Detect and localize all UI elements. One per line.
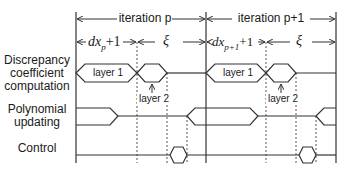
iteration-p-label: iteration p	[117, 12, 173, 25]
phase-suffix: +1	[239, 34, 253, 49]
signal-label-discrepancy: Discrepancy coefficient computation	[0, 54, 74, 93]
timing-diagram: Discrepancy coefficient computation Poly…	[0, 0, 347, 171]
phase-xi-label-p: ξ	[163, 34, 169, 48]
phase-var: dx	[212, 34, 224, 49]
phase-var: dx	[88, 34, 101, 49]
phase-suffix: +1	[106, 34, 121, 49]
control-pulse-p	[170, 147, 187, 163]
control-pulse-p1	[299, 147, 316, 163]
phase-sub: p+1	[224, 42, 239, 52]
poly-block-p1	[316, 108, 336, 125]
layer1-label-p1: layer 1	[220, 67, 256, 78]
signal-label-control: Control	[0, 142, 74, 155]
layer2-block-p	[137, 64, 167, 82]
poly-block-p	[187, 108, 258, 125]
layer2-label-p1: layer 2	[266, 93, 300, 104]
layer2-label-p: layer 2	[137, 93, 171, 104]
iteration-p1-label: iteration p+1	[232, 12, 310, 25]
signal-label-line: Control	[0, 142, 74, 155]
signal-label-line: computation	[0, 80, 74, 93]
phase-dxp-label: dxp+1	[88, 35, 121, 54]
layer1-label-p: layer 1	[90, 67, 126, 78]
phase-dxp1-label: dxp+1+1	[212, 35, 253, 54]
phase-xi-label-p1: ξ	[296, 34, 302, 48]
layer2-block-p1	[266, 64, 296, 82]
poly-block-start	[76, 108, 118, 125]
signal-label-polynomial: Polynomial updating	[0, 103, 74, 129]
signal-label-line: updating	[0, 116, 74, 129]
